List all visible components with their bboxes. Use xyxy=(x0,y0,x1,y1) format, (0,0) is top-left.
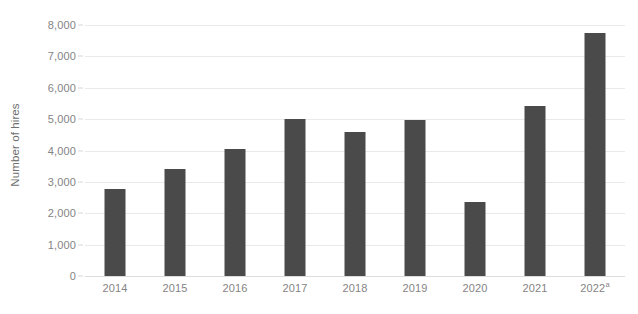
bars-layer xyxy=(85,25,625,276)
x-tick-label: 2020 xyxy=(462,282,487,294)
x-tick-label: 2015 xyxy=(162,282,187,294)
x-tick-label-text: 2014 xyxy=(102,282,127,294)
bar-group xyxy=(505,25,565,276)
y-tick-label: 4,000 xyxy=(48,145,76,157)
bar[interactable] xyxy=(525,106,546,276)
bar-group xyxy=(565,25,625,276)
y-tick-label: 2,000 xyxy=(48,207,76,219)
x-tick-label-text: 2022 xyxy=(580,282,605,294)
chart-title-cropped xyxy=(88,0,508,2)
y-tick-label: 8,000 xyxy=(48,19,76,31)
x-tick-footnote-marker: a xyxy=(605,280,609,289)
x-tick-label: 2017 xyxy=(282,282,307,294)
bar[interactable] xyxy=(345,132,366,276)
x-tick-label: 2018 xyxy=(342,282,367,294)
x-tick-label-text: 2015 xyxy=(162,282,187,294)
y-tick-label: 1,000 xyxy=(48,239,76,251)
y-tick-label: 3,000 xyxy=(48,176,76,188)
bar[interactable] xyxy=(105,189,126,276)
x-axis: 201420152016201720182019202020212022a xyxy=(85,282,625,304)
y-tick-mark xyxy=(78,87,83,88)
x-tick-label-text: 2020 xyxy=(462,282,487,294)
y-tick-mark xyxy=(78,213,83,214)
plot-area: 8,0007,0006,0005,0004,0003,0002,0001,000… xyxy=(85,25,625,276)
y-axis-title-label: Number of hires xyxy=(9,103,21,186)
y-tick-mark xyxy=(78,25,83,26)
bar[interactable] xyxy=(465,202,486,276)
bar-group xyxy=(385,25,445,276)
bar[interactable] xyxy=(165,169,186,276)
x-tick-label-text: 2019 xyxy=(402,282,427,294)
bar-group xyxy=(325,25,385,276)
bar-chart: Number of hires 8,0007,0006,0005,0004,00… xyxy=(0,0,638,314)
bar-group xyxy=(265,25,325,276)
x-tick-label: 2019 xyxy=(402,282,427,294)
x-tick-label: 2016 xyxy=(222,282,247,294)
y-tick-label: 5,000 xyxy=(48,113,76,125)
bar[interactable] xyxy=(285,119,306,276)
bar-group xyxy=(145,25,205,276)
x-tick-label-text: 2017 xyxy=(282,282,307,294)
y-tick-mark xyxy=(78,119,83,120)
bar-group xyxy=(445,25,505,276)
y-tick-mark xyxy=(78,244,83,245)
bar-group xyxy=(205,25,265,276)
bar[interactable] xyxy=(225,149,246,276)
y-tick-mark xyxy=(78,276,83,277)
x-tick-label: 2021 xyxy=(522,282,547,294)
y-tick-label: 0 xyxy=(70,270,76,282)
y-axis-title: Number of hires xyxy=(0,0,30,290)
y-tick-mark xyxy=(78,150,83,151)
x-tick-label-text: 2016 xyxy=(222,282,247,294)
y-tick-mark xyxy=(78,56,83,57)
x-tick-label: 2014 xyxy=(102,282,127,294)
gridline xyxy=(85,276,625,277)
x-tick-label-text: 2021 xyxy=(522,282,547,294)
x-tick-label: 2022a xyxy=(580,282,609,294)
bar[interactable] xyxy=(585,33,606,276)
x-tick-label-text: 2018 xyxy=(342,282,367,294)
y-tick-label: 6,000 xyxy=(48,82,76,94)
y-tick-mark xyxy=(78,181,83,182)
y-tick-label: 7,000 xyxy=(48,50,76,62)
bar[interactable] xyxy=(405,120,426,276)
bar-group xyxy=(85,25,145,276)
